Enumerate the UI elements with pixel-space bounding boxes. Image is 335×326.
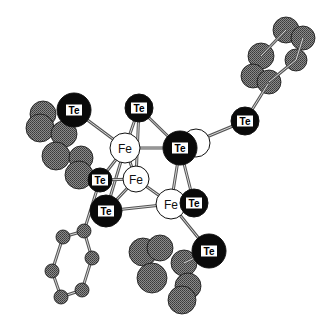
iron-atom-label: Fe: [164, 198, 178, 212]
carbon-atom: [26, 114, 54, 142]
tellurium-atom: Te: [57, 93, 91, 127]
iron-atom: Fe: [123, 166, 149, 192]
tellurium-atom: Te: [88, 168, 112, 192]
iron-atom-label: Fe: [129, 173, 143, 187]
carbon-atom: [54, 290, 68, 304]
carbon-atom: [147, 235, 173, 261]
tellurium-atom-label: Te: [95, 175, 106, 186]
tellurium-atom: Te: [90, 195, 122, 227]
carbon-atom: [75, 283, 89, 297]
tellurium-atom-label: Te: [189, 198, 200, 209]
carbon-atom: [168, 286, 196, 314]
tellurium-atom: Te: [180, 189, 208, 217]
iron-atom-label: Fe: [118, 142, 132, 156]
tellurium-atom-label: Te: [69, 105, 80, 116]
tellurium-atom-label: Te: [204, 246, 215, 257]
carbon-atom: [42, 142, 70, 170]
molecular-structure-diagram: FeFeFe TeTeTeTeTeTeTeTe: [0, 0, 335, 326]
carbon-atom: [45, 264, 59, 278]
carbon-atom: [77, 224, 91, 238]
tellurium-atom: Te: [125, 94, 153, 122]
tellurium-atom: Te: [231, 107, 259, 135]
iron-atom: Fe: [110, 133, 140, 163]
carbon-atom: [85, 251, 99, 265]
tellurium-atom-label: Te: [134, 103, 145, 114]
tellurium-atom-label: Te: [101, 206, 112, 217]
tellurium-atom: Te: [163, 131, 197, 165]
tellurium-atom: Te: [192, 234, 226, 268]
carbon-atoms-layer: [26, 17, 315, 314]
carbon-atom: [137, 263, 167, 293]
tellurium-atom-label: Te: [240, 116, 251, 127]
carbon-atom: [56, 230, 70, 244]
tellurium-atom-label: Te: [175, 143, 186, 154]
